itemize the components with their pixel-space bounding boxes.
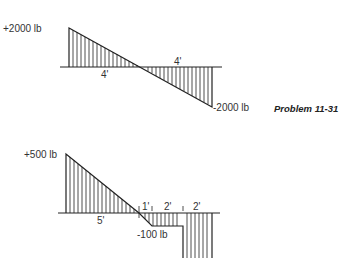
top-shear-diagram (60, 28, 222, 107)
shear-diagrams (0, 0, 358, 258)
bottom-segment-label-3: 2' (164, 202, 171, 212)
bottom-segment-label-2: 1' (142, 202, 149, 212)
bottom-max-label: +500 lb (24, 150, 57, 160)
bottom-segment-label-4: 2' (193, 202, 200, 212)
problem-label: Problem 11-31 (274, 104, 338, 114)
bottom-segment-label-1: 5' (97, 216, 104, 226)
top-min-label: -2000 lb (213, 103, 249, 113)
top-max-label: +2000 lb (3, 24, 42, 34)
top-segment-label-1: 4' (101, 70, 108, 80)
top-segment-label-2: 4' (174, 57, 181, 67)
bottom-min-label: -100 lb (137, 230, 168, 240)
